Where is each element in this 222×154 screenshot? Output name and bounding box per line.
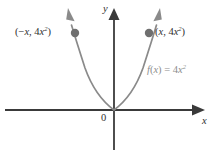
right-point-paren-close: ) — [182, 26, 186, 37]
y-axis-label: y — [103, 4, 108, 15]
right-branch-arrowhead — [153, 8, 161, 21]
x-axis-label: x — [202, 116, 207, 127]
right-point-separator: , 4 — [163, 26, 174, 37]
left-point-separator: , 4 — [29, 26, 40, 37]
point-marker-left — [71, 29, 79, 37]
origin-label: 0 — [101, 113, 106, 124]
point-marker-right — [145, 29, 153, 37]
y-axis-arrowhead — [109, 8, 120, 20]
left-point-label: (−x, 4x2) — [15, 27, 51, 38]
parabola-figure: (−x, 4x2) (x, 4x2) f(x) = 4x2 y x 0 — [0, 0, 222, 154]
function-paren-close: ) — [158, 64, 162, 75]
x-axis-arrowhead — [192, 105, 205, 116]
function-equation-label: f(x) = 4x2 — [147, 65, 186, 76]
left-branch-arrowhead — [66, 8, 74, 21]
graph-canvas — [0, 0, 222, 154]
function-exponent: 2 — [183, 63, 186, 70]
function-equals-sign: = — [164, 64, 170, 75]
right-point-label: (x, 4x2) — [155, 27, 185, 38]
left-point-paren-close: ) — [48, 26, 52, 37]
left-point-paren-open: (− — [15, 26, 24, 37]
